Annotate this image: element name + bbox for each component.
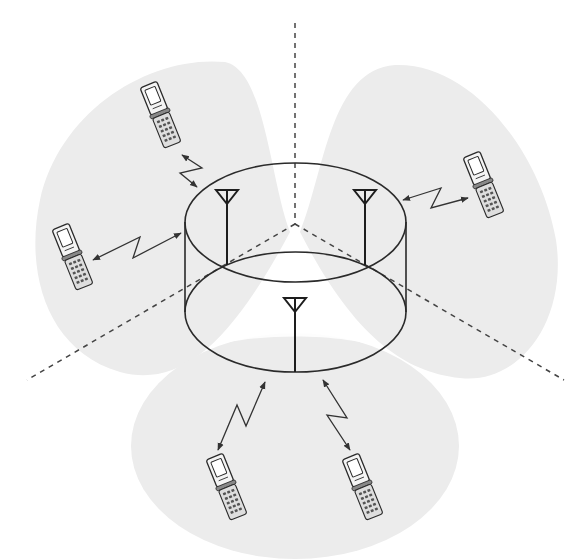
diagram-canvas: Three-sector base station with direction… [0,0,571,559]
